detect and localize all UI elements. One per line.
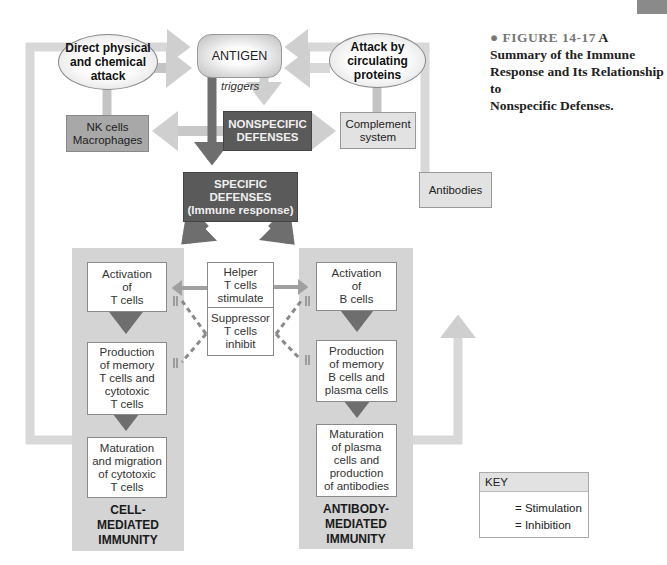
circ-attack-line2: circulating bbox=[347, 54, 408, 68]
suppressor-line2: T cells bbox=[211, 325, 270, 338]
cmi-line1: CELL- bbox=[72, 503, 184, 518]
nonspecific-defenses-box: NONSPECIFICDEFENSES bbox=[223, 111, 312, 151]
prod-b-line4: plasma cells bbox=[325, 384, 388, 397]
production-t-cells-box: Productionof memoryT cells andcytotoxicT… bbox=[87, 342, 167, 415]
specific-line1: SPECIFIC bbox=[187, 178, 293, 191]
mat-b-line4: production bbox=[324, 467, 389, 480]
specific-defenses-box: SPECIFICDEFENSES(Immune response) bbox=[183, 172, 298, 222]
prod-b-line1: Production bbox=[325, 345, 388, 358]
mat-b-line2: of plasma bbox=[324, 441, 389, 454]
mat-b-line1: Maturation bbox=[324, 428, 389, 441]
helper-line2: T cells bbox=[217, 279, 263, 292]
figure-label: ● FIGURE 14-17 bbox=[490, 30, 596, 45]
act-b-line3: B cells bbox=[332, 293, 382, 306]
antigen-box: ANTIGEN bbox=[197, 34, 282, 78]
antibody-mediated-immunity-label: ANTIBODY-MEDIATEDIMMUNITY bbox=[299, 502, 413, 547]
maturation-b-cells-box: Maturationof plasmacells andproductionof… bbox=[316, 424, 397, 497]
triggers-label: triggers bbox=[221, 80, 259, 92]
circ-attack-line3: proteins bbox=[347, 68, 408, 82]
mat-b-line5: of antibodies bbox=[324, 480, 389, 493]
act-t-line1: Activation bbox=[102, 268, 152, 281]
nonspecific-line2: DEFENSES bbox=[228, 131, 307, 144]
act-b-line2: of bbox=[332, 280, 382, 293]
helper-t-cells-box: HelperT cellsstimulate bbox=[207, 262, 274, 308]
cell-mediated-immunity-label: CELL-MEDIATEDIMMUNITY bbox=[72, 503, 184, 548]
suppressor-line1: Suppressor bbox=[211, 312, 270, 325]
specific-line3: (Immune response) bbox=[187, 204, 293, 217]
mat-b-line3: cells and bbox=[324, 454, 389, 467]
helper-line3: stimulate bbox=[217, 292, 263, 305]
direct-attack-line2: and chemical bbox=[65, 55, 150, 69]
complement-line1: Complement bbox=[345, 118, 410, 131]
complement-system-box: Complementsystem bbox=[340, 112, 416, 149]
prod-t-line4: cytotoxic bbox=[99, 385, 154, 398]
direct-attack-line1: Direct physical bbox=[65, 41, 150, 55]
maturation-t-cells-box: Maturationand migrationof cytotoxicT cel… bbox=[87, 437, 167, 498]
prod-t-line5: T cells bbox=[99, 398, 154, 411]
nonspecific-line1: NONSPECIFIC bbox=[228, 118, 307, 131]
complement-line2: system bbox=[345, 131, 410, 144]
prod-b-line2: of memory bbox=[325, 358, 388, 371]
cmi-line2: MEDIATED bbox=[72, 518, 184, 533]
circ-attack-line1: Attack by bbox=[347, 40, 408, 54]
activation-b-cells-box: ActivationofB cells bbox=[316, 262, 397, 311]
act-t-line2: of bbox=[102, 281, 152, 294]
antibodies-box: Antibodies bbox=[419, 172, 492, 208]
key-inhibition-label: = Inhibition bbox=[515, 519, 571, 531]
prod-t-line1: Production bbox=[99, 346, 154, 359]
direct-attack-oval: Direct physicaland chemicalattack bbox=[58, 34, 158, 90]
mat-t-line3: of cytotoxic bbox=[92, 468, 162, 481]
act-b-line1: Activation bbox=[332, 267, 382, 280]
mat-t-line2: and migration bbox=[92, 455, 162, 468]
key-heading: KEY bbox=[480, 473, 588, 492]
cmi-line3: IMMUNITY bbox=[72, 533, 184, 548]
circulating-attack-oval: Attack bycirculatingproteins bbox=[329, 33, 426, 88]
specific-line2: DEFENSES bbox=[187, 191, 293, 204]
act-t-line3: T cells bbox=[102, 294, 152, 307]
prod-t-line2: of memory bbox=[99, 359, 154, 372]
caption-line1: A bbox=[599, 30, 609, 45]
prod-t-line3: T cells and bbox=[99, 372, 154, 385]
figure-number: FIGURE 14-17 bbox=[503, 30, 596, 45]
ami-line3: IMMUNITY bbox=[299, 532, 413, 547]
caption-line2: Summary of the Immune bbox=[490, 46, 667, 63]
caption-line4: Nonspecific Defenses. bbox=[490, 97, 667, 114]
antibodies-label: Antibodies bbox=[429, 184, 483, 197]
caption-line3: Response and Its Relationship to bbox=[490, 63, 667, 97]
production-b-cells-box: Productionof memoryB cells andplasma cel… bbox=[316, 340, 397, 402]
ami-line1: ANTIBODY- bbox=[299, 502, 413, 517]
suppressor-t-cells-box: SuppressorT cellsinhibit bbox=[207, 307, 274, 356]
ami-line2: MEDIATED bbox=[299, 517, 413, 532]
nk-line1: NK cells bbox=[73, 121, 143, 134]
direct-attack-line3: attack bbox=[65, 69, 150, 83]
nk-cells-box: NK cellsMacrophages bbox=[66, 115, 149, 152]
activation-t-cells-box: ActivationofT cells bbox=[87, 262, 167, 312]
mat-t-line4: T cells bbox=[92, 481, 162, 494]
antigen-label: ANTIGEN bbox=[212, 49, 268, 63]
suppressor-line3: inhibit bbox=[211, 338, 270, 351]
mat-t-line1: Maturation bbox=[92, 442, 162, 455]
nk-line2: Macrophages bbox=[73, 134, 143, 147]
prod-b-line3: B cells and bbox=[325, 371, 388, 384]
helper-line1: Helper bbox=[217, 266, 263, 279]
key-stimulation-label: = Stimulation bbox=[515, 502, 582, 514]
figure-caption: ● FIGURE 14-17 A Summary of the Immune R… bbox=[490, 29, 667, 114]
